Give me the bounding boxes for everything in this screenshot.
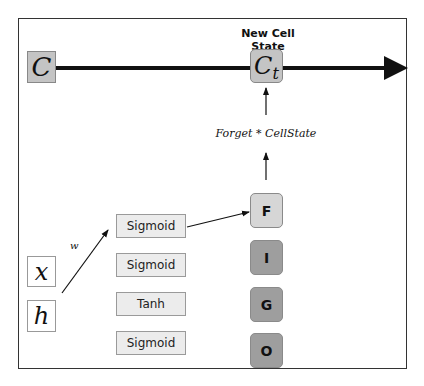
activation-label: Sigmoid (127, 258, 176, 272)
input-x-label: x (35, 258, 49, 286)
activation-label: Sigmoid (127, 336, 176, 350)
cell-state-input-label: C (32, 52, 52, 82)
cell-state-input-box: C (27, 51, 56, 83)
input-h-label: h (34, 302, 49, 330)
forget-times-cellstate-label: Forget * CellState (205, 127, 327, 140)
activation-sigmoid-input: Sigmoid (116, 253, 186, 277)
new-cell-state-label: C (254, 52, 272, 80)
new-cell-state-subscript: t (272, 64, 278, 83)
gate-candidate: G (250, 287, 283, 322)
input-h-box: h (27, 300, 56, 332)
gate-label: F (262, 203, 272, 219)
gate-label: O (261, 343, 273, 359)
weight-label: w (70, 240, 79, 251)
gate-label: I (264, 250, 269, 266)
gate-label: G (261, 297, 273, 313)
gate-output: O (250, 333, 283, 368)
arrow-input-to-sigmoid (62, 230, 108, 293)
new-cell-state-box: Ct (250, 49, 283, 83)
arrow-sigmoid-to-f (187, 212, 249, 227)
gate-forget: F (250, 193, 283, 228)
activation-sigmoid-output: Sigmoid (116, 331, 186, 355)
activation-label: Sigmoid (127, 219, 176, 233)
gate-input: I (250, 240, 283, 275)
activation-tanh: Tanh (116, 292, 186, 316)
connector-lines (0, 0, 424, 386)
input-x-box: x (27, 256, 56, 287)
activation-sigmoid-forget: Sigmoid (116, 214, 186, 238)
activation-label: Tanh (137, 297, 165, 311)
